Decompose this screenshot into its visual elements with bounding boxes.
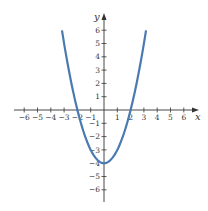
y-tick-label: 5 [95,39,100,48]
x-tick-label: −3 [59,113,70,122]
parabola-chart: −6−5−4−3−2−1123456−6−5−4−3−2−1123456 x y [0,0,208,211]
x-tick-label: −5 [32,113,43,122]
x-tick-label: 6 [181,113,186,122]
y-tick-label: −6 [89,185,100,194]
y-tick-label: 4 [95,52,100,61]
x-tick-label: −4 [45,113,56,122]
y-tick-label: 6 [95,26,100,35]
x-tick-label: 5 [168,113,173,122]
y-tick-label: −2 [89,132,100,141]
x-tick-label: 1 [115,113,120,122]
y-axis-arrow-icon [102,13,107,20]
x-tick-label: 4 [155,113,160,122]
x-axis-label: x [195,111,201,122]
y-tick-label: −1 [89,119,100,128]
y-axis-label: y [93,11,100,22]
x-tick-label: 3 [142,113,147,122]
y-tick-label: 3 [95,66,100,75]
y-tick-label: 2 [95,79,100,88]
x-tick-label: −6 [19,113,30,122]
axes [14,13,199,202]
y-tick-label: −5 [89,172,100,181]
y-tick-label: 1 [95,92,100,101]
